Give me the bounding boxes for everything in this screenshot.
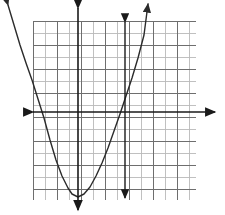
grid-major-lines (33, 21, 196, 200)
graph-figure (0, 0, 225, 215)
coordinate-graph-svg (0, 0, 225, 215)
